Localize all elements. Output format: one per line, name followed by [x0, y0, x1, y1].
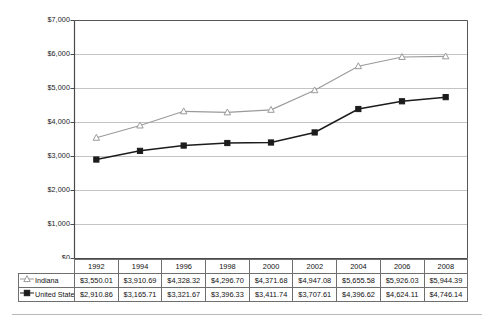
table-column-header: 1992: [75, 260, 119, 274]
series-layer: [93, 53, 449, 162]
table-cell: $4,296.70: [206, 274, 250, 288]
data-point-marker: [181, 143, 186, 148]
table-cell: $3,321.67: [162, 288, 206, 302]
table-cell: $4,396.62: [337, 288, 381, 302]
table-cell: $4,624.11: [380, 288, 424, 302]
data-point-marker: [137, 148, 142, 153]
table-column-header: 1996: [162, 260, 206, 274]
data-point-marker: [356, 106, 361, 111]
data-point-marker: [312, 130, 317, 135]
table-header: 199219941996199820002002200420062008: [19, 260, 468, 274]
y-axis-tick-label: $2,000: [18, 186, 70, 194]
y-axis-tick-label: $3,000: [18, 152, 70, 160]
table-cell: $3,165.71: [118, 288, 162, 302]
table-cell: $2,910.86: [75, 288, 119, 302]
series-united-states: [94, 95, 449, 163]
table-column-header: 2002: [293, 260, 337, 274]
table-cell: $5,655.58: [337, 274, 381, 288]
table-column-header: 1994: [118, 260, 162, 274]
table-header-row: 199219941996199820002002200420062008: [19, 260, 468, 274]
table-body: Indiana$3,550.01$3,910.69$4,328.32$4,296…: [19, 274, 468, 302]
table-row: United States$2,910.86$3,165.71$3,321.67…: [19, 288, 468, 302]
table-cell: $5,926.03: [380, 274, 424, 288]
table-row: Indiana$3,550.01$3,910.69$4,328.32$4,296…: [19, 274, 468, 288]
series-indiana: [93, 53, 449, 140]
y-axis-tick-label: $1,000: [18, 220, 70, 228]
series-label: Indiana: [35, 276, 59, 285]
y-axis-tick-label: $5,000: [18, 84, 70, 92]
table-cell: $3,910.69: [118, 274, 162, 288]
bottom-divider: [12, 314, 482, 315]
table-cell: $4,746.14: [424, 288, 468, 302]
data-point-marker: [225, 140, 230, 145]
table-cell: $3,707.61: [293, 288, 337, 302]
legend-key: [20, 289, 34, 299]
table-column-header: 1998: [206, 260, 250, 274]
series-label: United States: [35, 290, 75, 299]
table-column-header: 2008: [424, 260, 468, 274]
y-axis-tick-label: $6,000: [18, 50, 70, 58]
data-point-marker: [443, 95, 448, 100]
table-cell: $3,396.33: [206, 288, 250, 302]
table-cell: $3,411.74: [249, 288, 293, 302]
data-point-marker: [311, 87, 317, 93]
y-axis-tick-label: $7,000: [18, 16, 70, 24]
table-row-legend-label: United States: [19, 288, 75, 302]
table-column-header: 2006: [380, 260, 424, 274]
table-row-legend-label: Indiana: [19, 274, 75, 288]
data-point-marker: [94, 157, 99, 162]
table-cell: $3,550.01: [75, 274, 119, 288]
table-cell: $4,328.32: [162, 274, 206, 288]
legend-key: [20, 275, 34, 285]
line-chart-with-data-table: $0$1,000$2,000$3,000$4,000$5,000$6,000$7…: [0, 0, 494, 322]
table-column-header: 2004: [337, 260, 381, 274]
table-cell: $5,944.39: [424, 274, 468, 288]
table-column-header: 2000: [249, 260, 293, 274]
data-point-marker: [399, 99, 404, 104]
data-table: 199219941996199820002002200420062008 Ind…: [18, 259, 468, 302]
table-cell: $4,947.08: [293, 274, 337, 288]
data-point-marker: [268, 140, 273, 145]
legend-triangle-marker-icon: [20, 275, 34, 283]
series-line: [96, 56, 445, 137]
legend-square-marker-icon: [20, 289, 34, 297]
table-cell: $4,371.68: [249, 274, 293, 288]
y-axis-tick-label: $4,000: [18, 118, 70, 126]
table-corner-cell: [19, 260, 75, 274]
